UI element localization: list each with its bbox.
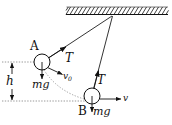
weight-label-b: mg xyxy=(93,106,110,117)
ceiling-group xyxy=(66,7,169,15)
velocity-label-a-subscript: 0 xyxy=(68,75,72,82)
weight-label-a: mg xyxy=(32,79,49,90)
height-label: h xyxy=(6,75,14,87)
velocity-label-a: v0 xyxy=(63,72,72,81)
physics-diagram: A T mg v0 B T mg v h xyxy=(0,0,172,125)
ceiling-hatching xyxy=(66,7,169,15)
velocity-arrow-a xyxy=(48,68,63,75)
string-a xyxy=(45,16,113,61)
bob-a-label: A xyxy=(30,40,39,52)
bob-b-label: B xyxy=(78,105,87,117)
tension-label-a: T xyxy=(65,52,73,64)
velocity-label-b: v xyxy=(123,94,128,103)
tension-label-b: T xyxy=(97,74,105,86)
